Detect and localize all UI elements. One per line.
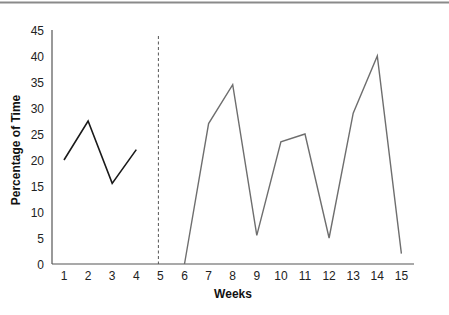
x-axis-title: Weeks	[214, 287, 252, 301]
x-tick-label: 12	[322, 269, 336, 283]
y-axis-ticks: 051015202530354045	[31, 24, 45, 272]
x-tick-label: 11	[299, 269, 312, 283]
x-tick-label: 8	[229, 269, 236, 283]
x-tick-label: 9	[253, 269, 260, 283]
y-tick-label: 20	[31, 154, 45, 168]
x-tick-label: 13	[347, 269, 361, 283]
y-axis-title: Percentage of Time	[9, 94, 23, 205]
y-tick-label: 35	[31, 76, 45, 90]
x-axis-ticks: 123456789101112131415	[61, 269, 409, 283]
y-tick-label: 45	[31, 24, 45, 38]
y-tick-label: 5	[37, 232, 44, 246]
x-tick-label: 3	[109, 269, 116, 283]
x-tick-label: 15	[395, 269, 409, 283]
y-tick-label: 15	[31, 180, 45, 194]
x-tick-label: 7	[205, 269, 212, 283]
x-tick-label: 5	[157, 269, 164, 283]
x-tick-label: 10	[274, 269, 288, 283]
x-tick-label: 14	[371, 269, 385, 283]
x-tick-label: 2	[85, 269, 92, 283]
data-series	[64, 56, 401, 264]
series-line-1	[64, 121, 136, 183]
y-tick-label: 0	[37, 258, 44, 272]
y-tick-label: 25	[31, 128, 45, 142]
line-chart: 051015202530354045 123456789101112131415…	[0, 0, 449, 315]
y-tick-label: 10	[31, 206, 45, 220]
series-line-2	[185, 56, 402, 264]
x-tick-label: 6	[181, 269, 188, 283]
x-tick-label: 4	[133, 269, 140, 283]
x-tick-label: 1	[61, 269, 68, 283]
y-tick-label: 40	[31, 50, 45, 64]
y-tick-label: 30	[31, 102, 45, 116]
